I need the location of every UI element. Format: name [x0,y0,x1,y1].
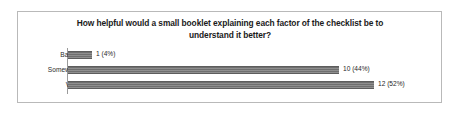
bar-fill [68,66,339,74]
bar-row: Barely 1 (4%) [18,48,443,63]
bar-barely[interactable] [68,51,92,59]
bar-value-barely: 1 (4%) [96,50,115,57]
chart-container: How helpful would a small booklet explai… [17,11,442,103]
bar-value-somewhat: 10 (44%) [343,65,370,72]
bar-fill [68,81,374,89]
chart-title-line-2: understand it better? [44,30,416,42]
bar-row: Very 12 (52%) [18,78,443,93]
bar-very[interactable] [68,81,374,89]
bar-value-very: 12 (52%) [378,80,405,87]
bar-row: Somewhat 10 (44%) [18,63,443,78]
chart-title: How helpful would a small booklet explai… [44,18,416,41]
plot-area: Barely 1 (4%) Somewhat 10 (44%) Very 12 … [18,48,443,102]
bar-fill [68,51,92,59]
bar-somewhat[interactable] [68,66,339,74]
chart-title-line-1: How helpful would a small booklet explai… [44,18,416,30]
